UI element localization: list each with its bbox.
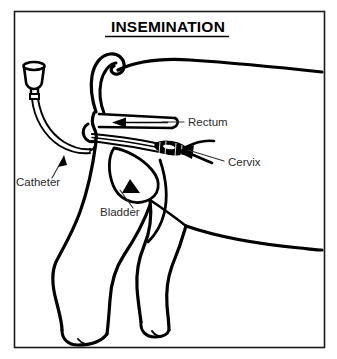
figure-border: [15, 12, 325, 348]
label-rectum: Rectum: [188, 116, 228, 128]
label-catheter: Catheter: [16, 176, 60, 188]
insemination-diagram: INSEMINATION: [0, 0, 337, 359]
syringe-bulb-rim: [24, 62, 45, 70]
label-cervix: Cervix: [228, 156, 261, 168]
label-bladder: Bladder: [100, 206, 140, 218]
diagram-canvas: INSEMINATION: [0, 0, 337, 359]
rectum-tube-lower: [99, 127, 172, 128]
page-title: INSEMINATION: [111, 18, 225, 35]
